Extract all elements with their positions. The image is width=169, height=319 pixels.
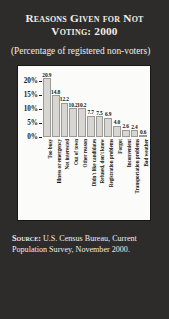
y-axis-tick-label: 0% [27,133,38,141]
bar-value-label: 0.6 [140,129,146,135]
y-axis-tick-label: 20% [24,77,38,85]
y-axis-tick: 15% [24,91,42,99]
category-column: Forgot [113,138,121,219]
category-column: Illness or emergency [52,138,60,219]
bar-column: 20.9 [43,75,51,137]
category-column: Didn't like candidates [87,138,95,219]
y-axis-tick-label: 10% [24,105,38,113]
bar [87,116,95,138]
tick-mark-icon [39,123,42,124]
bar [113,126,121,137]
chart-title: Reasons Given for Not Voting: 2000 [12,12,157,37]
category-label: Bad weather [143,139,149,167]
y-axis-tick: 20% [24,77,42,85]
y-axis-tick: 0% [27,133,42,141]
bar-column: 4.0 [113,75,121,137]
bar-series: 20.914.812.210.210.27.77.56.94.02.62.40.… [43,75,147,137]
bar [131,130,139,137]
chart-plot-panel: 0%5%10%15%20% 20.914.812.210.210.27.77.5… [17,65,151,221]
bar-value-label: 7.7 [87,109,93,115]
chart-figure: Reasons Given for Not Voting: 2000 (Perc… [0,0,169,319]
bar-column: 12.2 [61,75,69,137]
bar-value-label: 10.2 [69,102,78,108]
bar-value-label: 2.4 [131,124,137,130]
category-column: Refused, don't know [96,138,104,219]
bar-column: 0.6 [139,75,147,137]
bar-value-label: 14.8 [51,89,60,95]
figure-content: Reasons Given for Not Voting: 2000 (Perc… [0,0,169,319]
category-column: Inconvenient [122,138,130,219]
bar-value-label: 20.9 [42,72,51,78]
category-column: Not interested [61,138,69,219]
bar-column: 7.5 [96,75,104,137]
bar-value-label: 2.6 [122,123,128,129]
category-column: Other reason [78,138,86,219]
bar-column: 2.4 [131,75,139,137]
bar [96,116,104,137]
y-axis-tick-label: 5% [27,119,38,127]
bar [43,78,51,137]
bar [78,108,86,137]
bar [61,103,69,137]
tick-mark-icon [39,95,42,96]
bar-column: 10.2 [78,75,86,137]
bar [104,118,112,137]
bar-value-label: 7.5 [96,110,102,116]
y-axis-tick: 5% [27,119,42,127]
bar-column: 6.9 [104,75,112,137]
tick-mark-icon [39,137,42,138]
bar-value-label: 12.2 [60,96,69,102]
y-axis: 0%5%10%15%20% [18,75,42,137]
bar [139,135,147,137]
bar-column: 7.7 [87,75,95,137]
category-column: Registration problems [104,138,112,219]
bar-column: 14.8 [52,75,60,137]
source-label: Source: [12,234,41,243]
bar-value-label: 10.2 [77,102,86,108]
category-column: Transportation problems [131,138,139,219]
bar-value-label: 4.0 [114,119,120,125]
tick-mark-icon [39,81,42,82]
y-axis-tick: 10% [24,105,42,113]
bar-column: 10.2 [69,75,77,137]
bar-column: 2.6 [122,75,130,137]
plot-area: 20.914.812.210.210.27.77.56.94.02.62.40.… [43,75,147,137]
category-column: Out of town [69,138,77,219]
category-column: Too busy [43,138,51,219]
x-axis-category-labels: Too busyIllness or emergencyNot interest… [43,138,147,219]
chart-subtitle: (Percentage of registered non-voters) [11,46,158,57]
category-column: Bad weather [139,138,147,219]
bar [69,108,77,137]
bar [122,130,130,137]
tick-mark-icon [39,109,42,110]
bar [52,95,60,137]
y-axis-tick-label: 15% [24,91,38,99]
source-note: Source: U.S. Census Bureau, Current Popu… [12,234,157,255]
bar-value-label: 6.9 [105,111,111,117]
